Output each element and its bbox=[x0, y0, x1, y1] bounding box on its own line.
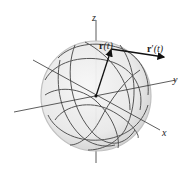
position-vector-label: r(t) bbox=[99, 41, 113, 51]
sphere-curve-diagram: z y x r(t) r′(t) bbox=[0, 0, 188, 171]
x-axis-label: x bbox=[162, 128, 166, 138]
z-axis-label: z bbox=[92, 13, 96, 23]
diagram-canvas bbox=[0, 0, 188, 171]
y-axis-label: y bbox=[173, 75, 177, 85]
tangent-vector-label: r′(t) bbox=[147, 44, 163, 54]
